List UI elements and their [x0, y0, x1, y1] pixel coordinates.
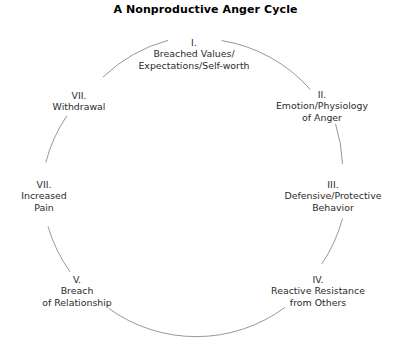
arc-segment-6-to-7 [46, 116, 67, 162]
stage-text-5-line-1: Breach [42, 285, 112, 296]
stage-label-3: III. Defensive/Protective Behavior [284, 179, 381, 213]
stage-text-4-line-1: Reactive Resistance [271, 285, 365, 296]
stage-text-6-line-2: Pain [21, 202, 67, 213]
stage-text-3-line-1: Defensive/Protective [284, 190, 381, 201]
arc-segment-5-to-6 [48, 227, 70, 272]
anger-cycle-diagram: A Nonproductive Anger Cycle I. Breached … [0, 0, 411, 360]
stage-text-2-line-1: Emotion/Physiology [276, 100, 368, 111]
stage-text-3-line-2: Behavior [284, 202, 381, 213]
arc-segment-3-to-4 [322, 219, 342, 264]
stage-label-7: VII. Withdrawal [53, 90, 106, 113]
stage-text-7-line-1: Withdrawal [53, 101, 106, 112]
stage-numeral-5: V. [42, 274, 112, 285]
arc-segment-4-to-5 [109, 308, 285, 337]
stage-label-4: IV. Reactive Resistance from Others [271, 274, 365, 308]
stage-text-1-line-1: Breached Values/ [138, 48, 249, 59]
stage-label-6: VII. Increased Pain [21, 179, 67, 213]
stage-numeral-6: VII. [21, 179, 67, 190]
stage-label-1: I. Breached Values/ Expectations/Self-wo… [138, 37, 249, 71]
stage-text-4-line-2: from Others [271, 297, 365, 308]
stage-label-2: II. Emotion/Physiology of Anger [276, 89, 368, 123]
stage-text-1-line-2: Expectations/Self-worth [138, 60, 249, 71]
stage-text-5-line-2: of Relationship [42, 297, 112, 308]
stage-numeral-2: II. [276, 89, 368, 100]
stage-numeral-1: I. [138, 37, 249, 48]
stage-numeral-4: IV. [271, 274, 365, 285]
stage-label-5: V. Breach of Relationship [42, 274, 112, 308]
stage-text-2-line-2: of Anger [276, 112, 368, 123]
stage-text-6-line-1: Increased [21, 190, 67, 201]
arc-segment-2-to-3 [336, 124, 343, 164]
stage-numeral-7: VII. [53, 90, 106, 101]
stage-numeral-3: III. [284, 179, 381, 190]
